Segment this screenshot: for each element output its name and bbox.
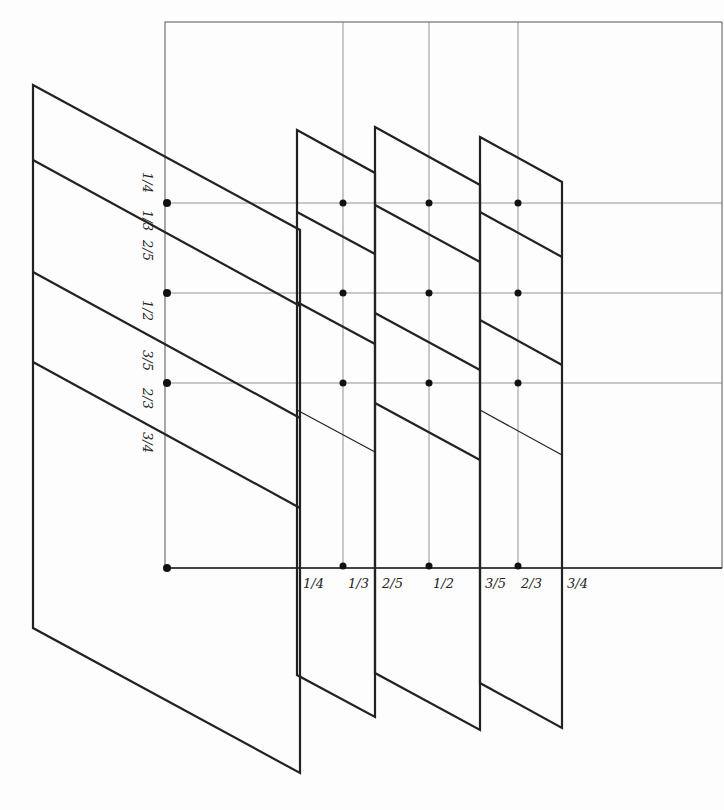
label-bottom-3-5: 3/5 [485, 576, 506, 591]
label-left-1-4: 1/4 [140, 172, 155, 193]
plane-3 [480, 137, 562, 728]
large-plane [33, 85, 300, 773]
label-left-1-2: 1/2 [140, 300, 155, 321]
plane-2 [375, 127, 480, 730]
label-left-2-5: 2/5 [140, 239, 155, 261]
label-left-3-5: 3/5 [140, 350, 155, 371]
label-left-2-3: 2/3 [140, 387, 155, 409]
label-left-3-4: 3/4 [140, 432, 155, 453]
diagram-canvas: 1/4 1/3 2/5 1/2 3/5 2/3 3/4 1/4 1/3 2/5 … [0, 0, 724, 810]
label-bottom-1-4: 1/4 [303, 576, 324, 591]
label-bottom-2-3: 2/3 [520, 576, 542, 591]
plane-1 [297, 130, 375, 717]
bottom-labels: 1/4 1/3 2/5 1/2 3/5 2/3 3/4 [303, 576, 588, 591]
outer-square [165, 22, 722, 568]
fraction-planes-diagram: 1/4 1/3 2/5 1/2 3/5 2/3 3/4 1/4 1/3 2/5 … [0, 0, 724, 810]
left-labels: 1/4 1/3 2/5 1/2 3/5 2/3 3/4 [140, 172, 155, 453]
label-bottom-3-4: 3/4 [567, 576, 588, 591]
grid-lines [165, 22, 722, 568]
label-left-1-3: 1/3 [140, 210, 155, 231]
label-bottom-1-3: 1/3 [348, 576, 369, 591]
label-bottom-2-5: 2/5 [381, 576, 403, 591]
label-bottom-1-2: 1/2 [433, 576, 454, 591]
